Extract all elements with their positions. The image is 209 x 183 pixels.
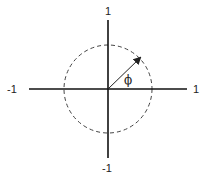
x-right-label: 1 [193,83,199,95]
y-bottom-label: -1 [102,162,112,174]
angle-label: ϕ [124,73,132,87]
y-top-label: 1 [105,5,111,17]
unit-circle-diagram: 1 -1 -1 1 ϕ [0,0,209,183]
x-left-label: -1 [7,83,17,95]
